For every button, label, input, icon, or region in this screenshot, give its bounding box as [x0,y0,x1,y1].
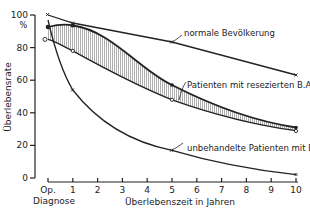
x-axis-label: Überlebenszeit in Jahren [125,197,235,207]
svg-text:10: 10 [290,185,302,195]
label-normal: normale Bevölkerung [184,28,275,38]
x-axis [48,178,298,182]
y-unit: % [19,21,27,30]
svg-text:0: 0 [22,173,28,183]
x-tick-sublabel: Diagnose [33,196,76,206]
svg-text:Op.: Op. [40,185,56,195]
svg-text:2: 2 [95,185,101,195]
x-tick-labels: Op. 1 2 3 4 5 6 7 8 9 10 [40,185,302,195]
svg-text:6: 6 [194,185,200,195]
svg-text:20: 20 [17,140,29,150]
svg-text:4: 4 [144,185,150,195]
svg-text:40: 40 [17,108,29,118]
svg-text:7: 7 [219,185,225,195]
label-resected: Patienten mit resezierten B.A. [187,80,310,90]
label-untreated: unbehandelte Patienten mit B.A. [187,143,310,153]
svg-text:9: 9 [268,185,274,195]
survival-chart: 100 80 60 40 20 0 % Überlebensrate Op. 1… [0,0,310,209]
svg-text:1: 1 [70,185,76,195]
y-axis [30,15,35,178]
resected-band [48,25,296,131]
svg-text:8: 8 [244,185,250,195]
svg-text:100: 100 [11,10,28,20]
y-axis-label: Überlebensrate [3,62,13,132]
svg-text:80: 80 [17,43,29,53]
svg-text:60: 60 [17,75,29,85]
y-tick-labels: 100 80 60 40 20 0 [11,10,28,183]
svg-text:3: 3 [120,185,126,195]
svg-text:5: 5 [169,185,175,195]
